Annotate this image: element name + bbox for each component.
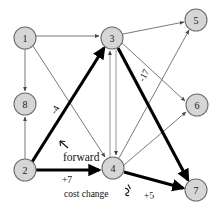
node-group: 1 8 2 3 4 5 6 (14, 9, 208, 201)
edge-label-plus-5: +5 (143, 190, 154, 201)
cost-change-pointer-arrow-icon (125, 185, 131, 196)
node-4[interactable]: 4 (102, 157, 124, 179)
node-7[interactable]: 7 (185, 179, 207, 201)
edge-3-to-5 (123, 22, 184, 34)
edge-label-plus-7: +7 (62, 175, 72, 185)
forward-pointer-arrow-icon (60, 141, 68, 148)
node-4-label: 4 (111, 163, 116, 174)
node-6-label: 6 (195, 100, 200, 111)
edge-4-to-7-thick (124, 172, 183, 188)
node-3-label: 3 (110, 33, 115, 44)
node-8-label: 8 (23, 99, 28, 110)
node-6[interactable]: 6 (186, 94, 208, 116)
node-7-label: 7 (194, 185, 199, 196)
edge-label-minus-17: -17 (137, 67, 152, 83)
node-1-label: 1 (23, 33, 28, 44)
node-1[interactable]: 1 (14, 27, 36, 49)
node-5[interactable]: 5 (185, 9, 207, 31)
node-5-label: 5 (194, 15, 199, 26)
forward-label: forward (63, 151, 100, 163)
node-8[interactable]: 8 (14, 93, 36, 115)
node-3[interactable]: 3 (101, 27, 123, 49)
network-diagram-canvas: 1 8 2 3 4 5 6 (0, 0, 217, 215)
edge-label-minus-4: -4 (49, 103, 62, 115)
edge-2-to-3-thick (32, 48, 104, 162)
edge-3-to-7-thick (118, 48, 188, 180)
node-2[interactable]: 2 (14, 159, 36, 181)
node-2-label: 2 (23, 165, 28, 176)
cost-change-label: cost change (64, 189, 109, 199)
parallel-edge-group-3-4 (110, 50, 116, 157)
network-diagram: 1 8 2 3 4 5 6 (0, 0, 217, 215)
